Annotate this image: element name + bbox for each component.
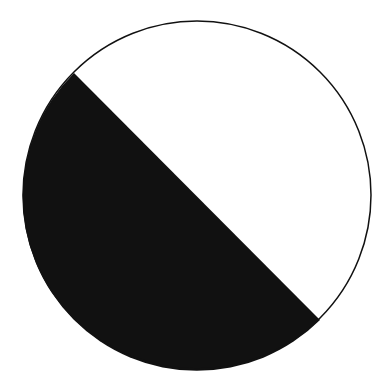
circle-segment-diagram [0, 0, 391, 391]
